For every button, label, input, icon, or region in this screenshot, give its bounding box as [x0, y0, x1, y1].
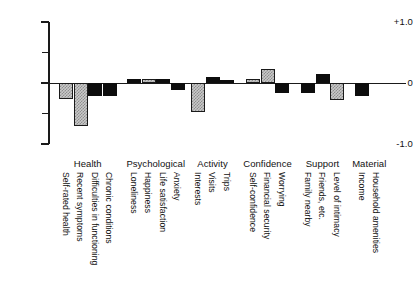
bar	[246, 79, 260, 83]
bar	[370, 83, 384, 84]
bar	[74, 83, 88, 126]
bar-item-label: Income	[357, 172, 366, 200]
bar	[156, 79, 170, 83]
bar-item-label: Life satisfaction	[158, 172, 167, 232]
bar-item-label: Self-confidence	[248, 172, 257, 232]
bar-item-label: Household amenities	[371, 172, 380, 253]
bar-item-label: Visits	[207, 172, 216, 193]
bar-item-label: Friends, etc.	[317, 172, 326, 220]
bar	[142, 79, 156, 83]
bar	[301, 83, 315, 93]
bar-item-label: Happiness	[143, 172, 152, 213]
bar	[59, 83, 73, 99]
y-axis-tick	[41, 82, 49, 84]
bar-item-label: Anxiety	[172, 172, 181, 201]
y-axis-tick	[41, 143, 49, 145]
bar	[261, 69, 275, 83]
bar-item-label: Loneliness	[129, 172, 138, 214]
bar	[103, 83, 117, 96]
bar-item-label: Family nearby	[303, 172, 312, 227]
y-axis-tick	[42, 113, 49, 115]
group-label: Material	[309, 158, 413, 169]
bar-chart: +1.00-1.0 HealthPsychologicalActivityCon…	[0, 0, 413, 306]
bar-item-label: Difficulties in functioning	[90, 172, 99, 265]
bar	[355, 83, 369, 96]
bar-item-label: Recent symptoms	[75, 172, 84, 242]
bar	[206, 77, 220, 83]
bar-item-label: Level of intimacy	[332, 172, 341, 237]
bar	[316, 74, 330, 83]
y-axis-tick	[41, 21, 49, 23]
bar	[191, 83, 205, 112]
bar	[220, 80, 234, 83]
bar-item-label: Trips	[222, 172, 231, 191]
bar	[88, 83, 102, 96]
bar-item-label: Chronic conditions	[104, 172, 113, 244]
plot-area	[49, 22, 409, 144]
bar-item-label: Self-rated health	[61, 172, 70, 236]
bar-item-label: Financial security	[262, 172, 271, 239]
bar	[127, 79, 141, 83]
bar	[275, 83, 289, 93]
bar	[171, 83, 185, 90]
bar-item-label: Worrying	[277, 172, 286, 207]
bar-item-label: Interests	[193, 172, 202, 205]
bar	[330, 83, 344, 100]
y-axis-tick	[42, 52, 49, 54]
